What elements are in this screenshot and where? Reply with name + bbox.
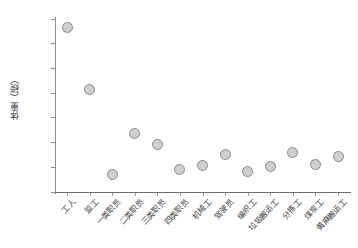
data-point: [152, 139, 163, 150]
x-tick-label: 驾驶员: [213, 197, 236, 221]
data-point: [62, 22, 73, 33]
x-tick-mark: [270, 193, 271, 196]
data-point: [220, 149, 231, 160]
x-tick-mark: [67, 193, 68, 196]
y-axis-line: [55, 17, 56, 194]
y-axis-title-text: 体重（磅）: [7, 75, 20, 120]
data-point: [197, 160, 208, 171]
x-tick-mark: [90, 193, 91, 196]
x-tick-mark: [135, 193, 136, 196]
x-tick-mark: [225, 193, 226, 196]
data-point: [333, 151, 344, 162]
x-tick-mark: [293, 193, 294, 196]
y-tick-mark: [51, 192, 55, 193]
data-point: [129, 128, 140, 139]
data-point: [242, 166, 253, 177]
scatter-chart: 体重（磅） 100110120130140150160170 工人监工一类职员二…: [0, 0, 358, 248]
data-point: [84, 84, 95, 95]
y-tick-mark: [51, 43, 55, 44]
x-tick-mark: [112, 193, 113, 196]
y-tick-mark: [51, 167, 55, 168]
y-tick-mark: [51, 19, 55, 20]
y-axis-title: 体重（磅）: [2, 0, 24, 195]
x-tick-mark: [315, 193, 316, 196]
x-tick-label: 机械工: [190, 197, 213, 221]
x-tick-mark: [338, 193, 339, 196]
x-tick-mark: [248, 193, 249, 196]
y-tick-mark: [51, 93, 55, 94]
y-tick-mark: [51, 68, 55, 69]
x-tick-mark: [157, 193, 158, 196]
x-tick-label: 分拣工: [281, 197, 304, 221]
data-point: [107, 169, 118, 180]
data-point: [287, 147, 298, 158]
y-tick-mark: [51, 142, 55, 143]
data-point: [174, 164, 185, 175]
data-point: [265, 161, 276, 172]
x-tick-mark: [203, 193, 204, 196]
x-tick-label: 监工: [83, 197, 100, 215]
x-tick-mark: [180, 193, 181, 196]
data-point: [310, 159, 321, 170]
y-tick-mark: [51, 117, 55, 118]
x-tick-label: 工人: [60, 197, 77, 215]
